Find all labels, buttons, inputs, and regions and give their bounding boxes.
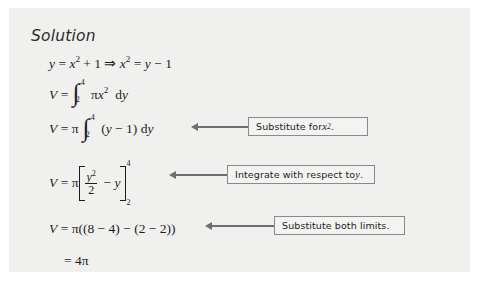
equation-step-6: = 4π	[64, 254, 89, 268]
callout-2-text-after: .	[360, 169, 363, 180]
arrowhead-callout-1	[191, 123, 198, 131]
solution-figure: Solution y = x2 + 1 ⇒ x2 = y − 1 V = ∫ 4…	[0, 0, 499, 288]
bracket-with-limits: y2 2 − y 4 2	[79, 166, 125, 201]
callout-3-text-before: Substitute both limits.	[282, 220, 390, 231]
callout-integrate-wrt-y: Integrate with respect to y.	[227, 165, 375, 184]
equation-step-1: y = x2 + 1 ⇒ x2 = y − 1	[49, 55, 172, 71]
integral-sign-step-2: ∫ 4 2	[72, 87, 88, 101]
connector-callout-1	[198, 126, 248, 127]
arrowhead-callout-3	[205, 222, 212, 230]
callout-substitute-both-limits: Substitute both limits.	[274, 216, 405, 235]
arrowhead-callout-2	[169, 171, 176, 179]
equation-step-4: V = π y2 2 − y 4 2	[49, 166, 127, 201]
connector-callout-3	[212, 225, 274, 226]
content-card: Solution y = x2 + 1 ⇒ x2 = y − 1 V = ∫ 4…	[9, 8, 470, 272]
equation-step-5: V = π((8 − 4) − (2 − 2))	[49, 222, 176, 236]
equation-step-3: V = π ∫ 4 2 (y − 1) dy	[49, 122, 153, 136]
integral-sign-step-3: ∫ 4 2	[82, 122, 98, 136]
limit-lower: 2	[127, 199, 131, 207]
equation-step-2: V = ∫ 4 2 πx2 dy	[49, 86, 128, 101]
page-title: Solution	[31, 27, 96, 45]
fraction-y-squared-over-two: y2 2	[85, 170, 96, 197]
connector-callout-2	[176, 174, 227, 175]
callout-1-text-after: .	[331, 121, 334, 132]
callout-1-text-before: Substitute for	[256, 121, 322, 132]
callout-2-text-before: Integrate with respect to	[235, 169, 355, 180]
limit-upper: 4	[127, 160, 131, 168]
callout-substitute-x-squared: Substitute for x2.	[248, 117, 368, 136]
